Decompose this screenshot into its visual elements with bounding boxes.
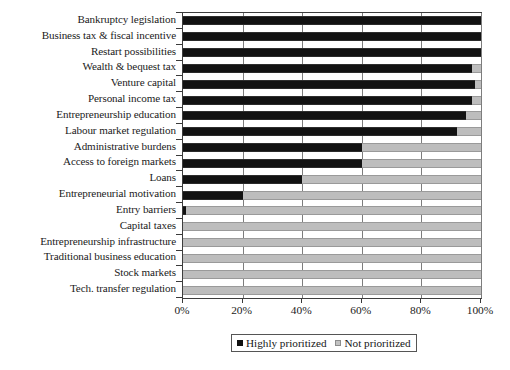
bar-segment-not-prioritized [183,238,481,247]
bar-row [183,48,481,57]
bar-segment-highly-prioritized [183,191,243,200]
value-tick-label: 80% [410,303,431,317]
bar-track [183,206,481,215]
bar-segment-not-prioritized [472,64,481,73]
bar-segment-not-prioritized [183,222,481,231]
bar-row [183,159,481,168]
legend-swatch-black-square-icon [237,340,243,346]
category-label: Stock markets [0,267,176,279]
bar-row [183,222,481,231]
bar-segment-not-prioritized [302,175,481,184]
bar-track [183,48,481,57]
bar-row [183,270,481,279]
gridline [481,13,482,298]
bar-row [183,143,481,152]
bar-segment-highly-prioritized [183,80,475,89]
bar-segment-highly-prioritized [183,175,302,184]
value-tick-label: 20% [231,303,252,317]
bar-segment-not-prioritized [183,254,481,263]
bar-track [183,32,481,41]
category-axis-labels: Bankruptcy legislationBusiness tax & fis… [0,12,176,297]
category-label: Entrepreneurial motivation [0,188,176,200]
bar-segment-not-prioritized [362,159,481,168]
category-label: Entrepreneurship infrastructure [0,236,176,248]
bar-row [183,96,481,105]
category-label: Labour market regulation [0,125,176,137]
bar-segment-not-prioritized [475,80,481,89]
bar-track [183,127,481,136]
value-tick-label: 100% [467,303,494,317]
category-label: Administrative burdens [0,141,176,153]
bar-segment-highly-prioritized [183,111,466,120]
category-label: Personal income tax [0,93,176,105]
bar-track [183,222,481,231]
bar-segment-not-prioritized [472,96,481,105]
bar-track [183,238,481,247]
bar-row [183,286,481,295]
bar-row [183,16,481,25]
bar-row [183,238,481,247]
bar-segment-highly-prioritized [183,143,362,152]
chart-legend: Highly prioritized Not prioritized [231,334,417,352]
bar-segment-highly-prioritized [183,48,481,57]
bar-row [183,206,481,215]
value-axis-labels: 0%20%40%60%80%100% [0,303,510,319]
bar-segment-highly-prioritized [183,159,362,168]
bar-segment-highly-prioritized [183,64,472,73]
bar-row [183,191,481,200]
bar-track [183,286,481,295]
category-label: Tech. transfer regulation [0,283,176,295]
bar-row [183,32,481,41]
bar-segment-not-prioritized [243,191,481,200]
legend-label-highly-prioritized: Highly prioritized [246,337,326,349]
category-label: Wealth & bequest tax [0,61,176,73]
category-label: Traditional business education [0,251,176,263]
bar-track [183,175,481,184]
bar-segment-not-prioritized [186,206,481,215]
bar-track [183,80,481,89]
legend-label-not-prioritized: Not prioritized [344,337,410,349]
bar-row [183,64,481,73]
bar-track [183,143,481,152]
bar-segment-not-prioritized [466,111,481,120]
bar-track [183,111,481,120]
category-label: Capital taxes [0,220,176,232]
bar-segment-highly-prioritized [183,16,481,25]
category-label: Restart possibilities [0,46,176,58]
category-label: Bankruptcy legislation [0,14,176,26]
bar-segment-not-prioritized [183,286,481,295]
value-tick-label: 60% [350,303,371,317]
bar-track [183,254,481,263]
category-label: Loans [0,172,176,184]
plot-area [182,12,482,299]
bar-track [183,191,481,200]
bar-row [183,111,481,120]
legend-swatch-gray-square-icon [335,340,341,346]
legend-item-not-prioritized: Not prioritized [335,337,410,349]
category-label: Business tax & fiscal incentive [0,30,176,42]
bar-segment-not-prioritized [457,127,481,136]
bar-track [183,64,481,73]
bar-segment-not-prioritized [362,143,481,152]
bar-segment-not-prioritized [183,270,481,279]
value-tick-label: 40% [291,303,312,317]
bar-segment-highly-prioritized [183,32,481,41]
stacked-bar-chart: Bankruptcy legislationBusiness tax & fis… [0,0,510,370]
bar-row [183,254,481,263]
bar-segment-highly-prioritized [183,96,472,105]
legend-item-highly-prioritized: Highly prioritized [237,337,326,349]
category-label: Access to foreign markets [0,156,176,168]
bar-row [183,175,481,184]
bar-segment-highly-prioritized [183,127,457,136]
category-label: Entrepreneurship education [0,109,176,121]
value-tick-label: 0% [174,303,189,317]
bar-track [183,96,481,105]
bar-row [183,127,481,136]
category-label: Entry barriers [0,204,176,216]
bar-track [183,270,481,279]
bar-track [183,159,481,168]
category-label: Venture capital [0,77,176,89]
bar-track [183,16,481,25]
bar-row [183,80,481,89]
